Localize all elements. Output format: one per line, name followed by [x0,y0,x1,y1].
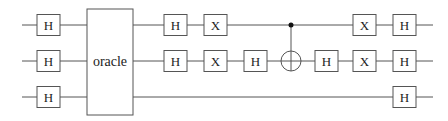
gate-label: X [211,54,221,69]
pauli-x-gate: X [353,51,376,72]
oracle-label: oracle [93,54,127,69]
gate-label: H [44,18,53,33]
gate-label: X [360,18,370,33]
gate-label: H [400,90,409,105]
hadamard-gate: H [37,15,60,36]
oracle-block: oracle [87,9,133,115]
hadamard-gate: H [393,51,416,72]
gate-label: X [211,18,221,33]
gate-label: H [322,54,331,69]
hadamard-gate: H [164,15,187,36]
pauli-x-gate: X [204,15,227,36]
hadamard-gate: H [244,51,267,72]
hadamard-gate: H [393,87,416,108]
gate-label: H [400,18,409,33]
gate-label: H [171,18,180,33]
control-dot-icon [289,23,294,28]
gate-label: H [251,54,260,69]
hadamard-gate: H [315,51,338,72]
hadamard-gate: H [37,51,60,72]
hadamard-gate: H [393,15,416,36]
cnot-gate [281,23,301,72]
gate-label: H [400,54,409,69]
gate-label: H [44,90,53,105]
quantum-circuit-diagram: oracle HHHHHXXHHXXHHH [0,0,448,121]
hadamard-gate: H [164,51,187,72]
hadamard-gate: H [37,87,60,108]
pauli-x-gate: X [204,51,227,72]
gate-label: H [44,54,53,69]
gate-label: H [171,54,180,69]
gate-label: X [360,54,370,69]
pauli-x-gate: X [353,15,376,36]
